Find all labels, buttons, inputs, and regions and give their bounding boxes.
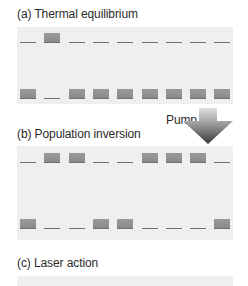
level-line	[214, 162, 230, 163]
level-line	[214, 42, 230, 43]
title-panel-b: (b) Population inversion	[17, 127, 141, 141]
atom-block	[190, 89, 206, 99]
panel-thermal-equilibrium	[17, 27, 233, 104]
level-line	[69, 42, 85, 43]
atom-block	[117, 219, 133, 229]
panel-laser-action	[17, 276, 233, 286]
atom-block	[166, 153, 182, 163]
level-line	[93, 162, 109, 163]
title-panel-c: (c) Laser action	[17, 256, 98, 270]
level-line	[142, 42, 158, 43]
atom-block	[214, 219, 230, 229]
atom-block	[93, 89, 109, 99]
atom-block	[117, 89, 133, 99]
atom-block	[69, 153, 85, 163]
level-line	[20, 162, 36, 163]
atom-block	[190, 153, 206, 163]
atom-block	[142, 153, 158, 163]
atom-block	[20, 219, 36, 229]
atom-block	[142, 89, 158, 99]
level-line	[190, 228, 206, 229]
level-line	[166, 228, 182, 229]
level-line	[20, 42, 36, 43]
level-line	[190, 42, 206, 43]
atom-block	[44, 33, 60, 43]
panel-population-inversion	[17, 146, 233, 240]
pump-arrow-icon	[183, 108, 233, 144]
level-line	[117, 42, 133, 43]
atom-block	[44, 153, 60, 163]
level-line	[142, 228, 158, 229]
title-panel-a: (a) Thermal equilibrium	[17, 7, 138, 21]
level-line	[44, 228, 60, 229]
level-line	[69, 228, 85, 229]
atom-block	[214, 89, 230, 99]
level-line	[93, 42, 109, 43]
level-line	[44, 98, 60, 99]
level-line	[117, 162, 133, 163]
level-line	[166, 42, 182, 43]
atom-block	[20, 89, 36, 99]
atom-block	[69, 89, 85, 99]
atom-block	[93, 219, 109, 229]
atom-block	[166, 89, 182, 99]
